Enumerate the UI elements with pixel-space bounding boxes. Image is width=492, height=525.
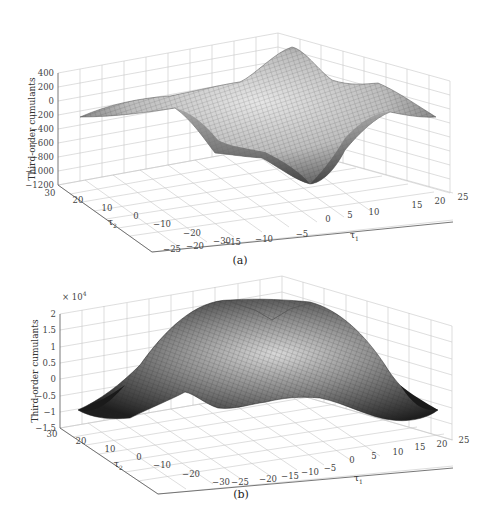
svg-text:−25: −25 [163,244,181,254]
svg-text:0: 0 [133,211,138,221]
svg-text:20: 20 [435,196,446,206]
svg-text:1.5: 1.5 [42,325,56,335]
svg-text:25: 25 [459,435,470,445]
svg-text:0.5: 0.5 [42,358,56,368]
figure: 400 200 0 −200 −400 −600 −800 −1000 −120… [0,0,492,525]
svg-text:−20: −20 [259,474,277,484]
svg-text:5: 5 [371,451,376,461]
svg-text:−5: −5 [324,463,337,473]
panel-b-caption: (b) [233,488,249,501]
panel-a-zlabel: Third-order cumulants [27,77,37,181]
svg-text:−20: −20 [182,469,200,479]
svg-text:0: 0 [136,452,141,462]
svg-text:−5: −5 [296,229,309,239]
svg-text:30: 30 [45,188,56,198]
svg-text:20: 20 [437,439,448,449]
svg-text:0: 0 [325,214,330,224]
svg-text:20: 20 [73,195,84,205]
svg-text:−10: −10 [153,219,171,229]
panel-a-ylabel: τ2 [108,217,117,229]
svg-text:−25: −25 [231,477,249,487]
svg-text:−15: −15 [281,471,299,481]
svg-text:−10: −10 [301,467,319,477]
svg-text:15: 15 [412,200,423,210]
svg-text:5: 5 [347,210,352,220]
svg-text:15: 15 [415,442,426,452]
svg-text:2: 2 [51,309,56,319]
panel-b-multiplier: × 104 [62,290,87,302]
svg-text:25: 25 [458,192,469,202]
panel-b-zlabel: Third-order cumulants [30,319,40,423]
svg-text:200: 200 [38,82,54,92]
svg-text:10: 10 [102,203,113,213]
svg-text:20: 20 [76,436,87,446]
svg-text:10: 10 [105,444,116,454]
svg-text:30: 30 [47,429,58,439]
svg-text:0: 0 [51,374,56,384]
svg-text:0: 0 [349,455,354,465]
svg-text:−10: −10 [153,460,171,470]
svg-text:−15: −15 [223,237,241,247]
svg-text:−1: −1 [43,407,56,417]
panel-a-caption: (a) [232,254,247,267]
svg-text:400: 400 [38,68,54,78]
svg-text:−30: −30 [212,477,230,487]
svg-text:−20: −20 [186,241,204,251]
svg-text:−10: −10 [255,234,273,244]
panel-b-ylabel: τ2 [114,459,123,471]
svg-text:0: 0 [49,96,54,106]
panel-a: 400 200 0 −200 −400 −600 −800 −1000 −120… [25,33,468,267]
svg-text:1: 1 [51,342,56,352]
panel-b: × 104 2 1.5 1 0.5 0 −0.5 −1 −1.5 Third-o… [30,276,469,501]
svg-text:10: 10 [393,447,404,457]
panel-a-y-ticks: 30 20 10 0 −10 −20 −30 [45,188,231,246]
svg-text:10: 10 [369,207,380,217]
svg-text:−20: −20 [183,228,201,238]
